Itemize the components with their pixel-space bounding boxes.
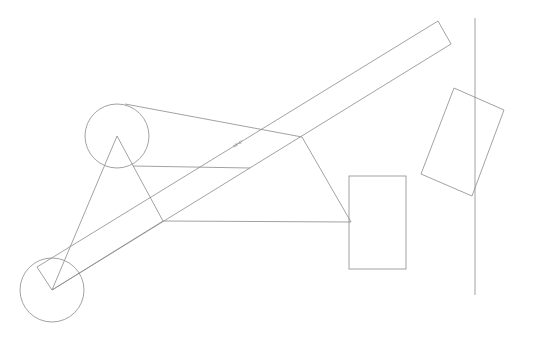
drawing-canvas: 18'-6" bbox=[0, 0, 534, 341]
quadrilateral[interactable] bbox=[125, 104, 351, 222]
triangle[interactable] bbox=[52, 136, 163, 290]
long-bar[interactable] bbox=[37, 21, 451, 290]
horizontal-line[interactable] bbox=[133, 166, 250, 168]
rectangle[interactable] bbox=[349, 176, 406, 269]
rotated-rectangle[interactable] bbox=[421, 88, 504, 196]
dimension-label: 18'-6" bbox=[232, 139, 244, 149]
